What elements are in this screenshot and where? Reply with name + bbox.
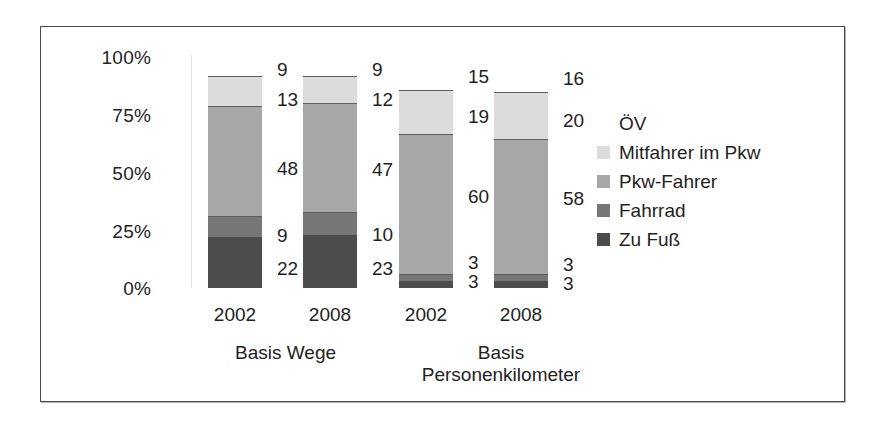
value-label-wege-2008-pkw-fahrer: 47 xyxy=(372,160,393,179)
bar-segment-zu-fuss xyxy=(303,235,357,288)
value-label-pkm-2002-pkw-fahrer: 60 xyxy=(468,187,489,206)
plot-area: 100% 75% 50% 25% 0% 9 13 48 9 22 xyxy=(41,27,846,403)
bar-segment-pkw-fahrer xyxy=(399,134,453,274)
value-label-wege-2002-fahrrad: 9 xyxy=(277,226,288,245)
bar-segment-mitfahrer-im-pkw xyxy=(494,92,548,139)
value-label-pkm-2008-pkw-fahrer: 58 xyxy=(563,189,584,208)
y-axis-line xyxy=(191,55,192,288)
value-label-pkm-2008-zu-fuss: 3 xyxy=(563,274,574,293)
bar-segment-pkw-fahrer xyxy=(208,106,262,217)
bar-column-wege-2002[interactable] xyxy=(208,55,262,288)
value-label-wege-2008-zu-fuss: 23 xyxy=(372,259,393,278)
chart-legend: ÖV Mitfahrer im Pkw Pkw-Fahrer Fahrrad Z xyxy=(597,109,827,254)
bar-segment-pkw-fahrer xyxy=(494,139,548,274)
value-label-pkm-2002-zu-fuss: 3 xyxy=(468,272,479,291)
group-label-basis-personenkilometer: Basis Personenkilometer xyxy=(371,342,631,387)
value-label-pkm-2002-mitfahrer: 19 xyxy=(468,107,489,126)
group-label-line-1: Basis xyxy=(371,342,631,364)
group-label-line-2: Personenkilometer xyxy=(371,364,631,386)
value-label-pkm-2008-oev: 16 xyxy=(563,69,584,88)
legend-item-oev[interactable]: ÖV xyxy=(597,109,827,138)
value-label-wege-2002-mitfahrer: 13 xyxy=(277,90,298,109)
bar-segment-fahrrad xyxy=(208,216,262,237)
y-axis-tick-75: 75% xyxy=(63,105,151,127)
y-axis-tick-0: 0% xyxy=(63,278,151,300)
bar-segment-mitfahrer-im-pkw xyxy=(208,76,262,106)
bar-segment-zu-fuss xyxy=(494,281,548,288)
x-axis-label-wege-2002: 2002 xyxy=(198,304,272,326)
legend-swatch-mitfahrer-icon xyxy=(597,146,610,159)
legend-item-mitfahrer-im-pkw[interactable]: Mitfahrer im Pkw xyxy=(597,138,827,167)
bar-segment-oev xyxy=(303,55,357,76)
bar-segment-mitfahrer-im-pkw xyxy=(399,90,453,134)
bar-segment-zu-fuss xyxy=(208,237,262,288)
legend-swatch-fahrrad-icon xyxy=(597,204,610,217)
x-axis-label-pkm-2008: 2008 xyxy=(484,304,558,326)
legend-item-pkw-fahrer[interactable]: Pkw-Fahrer xyxy=(597,167,827,196)
legend-swatch-zu-fuss-icon xyxy=(597,233,610,246)
y-axis-tick-100: 100% xyxy=(63,47,151,69)
bar-segment-fahrrad xyxy=(303,212,357,235)
legend-swatch-pkw-fahrer-icon xyxy=(597,175,610,188)
y-axis-tick-25: 25% xyxy=(63,221,151,243)
value-label-wege-2002-pkw-fahrer: 48 xyxy=(277,159,298,178)
bar-segment-mitfahrer-im-pkw xyxy=(303,76,357,104)
legend-label-zu-fuss: Zu Fuß xyxy=(619,229,680,251)
legend-swatch-oev-icon xyxy=(597,117,610,130)
figure-frame: 100% 75% 50% 25% 0% 9 13 48 9 22 xyxy=(40,26,845,402)
value-label-wege-2008-fahrrad: 10 xyxy=(372,225,393,244)
value-label-pkm-2002-oev: 15 xyxy=(468,67,489,86)
legend-label-pkw-fahrer: Pkw-Fahrer xyxy=(619,171,717,193)
value-label-pkm-2008-fahrrad: 3 xyxy=(563,255,574,274)
bar-segment-zu-fuss xyxy=(399,281,453,288)
y-axis-tick-50: 50% xyxy=(63,163,151,185)
bar-column-pkm-2008[interactable] xyxy=(494,55,548,288)
value-label-wege-2002-zu-fuss: 22 xyxy=(277,259,298,278)
value-label-wege-2008-oev: 9 xyxy=(372,60,383,79)
legend-item-zu-fuss[interactable]: Zu Fuß xyxy=(597,225,827,254)
bar-segment-fahrrad xyxy=(399,274,453,281)
legend-label-oev: ÖV xyxy=(619,113,646,135)
bar-stack xyxy=(399,55,453,288)
bar-stack xyxy=(494,55,548,288)
bar-column-pkm-2002[interactable] xyxy=(399,55,453,288)
value-label-pkm-2008-mitfahrer: 20 xyxy=(563,111,584,130)
group-label-basis-wege: Basis Wege xyxy=(188,342,383,364)
value-label-wege-2008-mitfahrer: 12 xyxy=(372,90,393,109)
x-axis-label-pkm-2002: 2002 xyxy=(389,304,463,326)
bar-stack xyxy=(303,55,357,288)
bar-segment-oev xyxy=(494,55,548,92)
value-label-wege-2002-oev: 9 xyxy=(277,60,288,79)
bar-segment-oev xyxy=(208,55,262,76)
bar-column-wege-2008[interactable] xyxy=(303,55,357,288)
bar-segment-pkw-fahrer xyxy=(303,103,357,211)
value-label-pkm-2002-fahrrad: 3 xyxy=(468,253,479,272)
legend-item-fahrrad[interactable]: Fahrrad xyxy=(597,196,827,225)
bar-stack xyxy=(208,55,262,288)
bar-segment-oev xyxy=(399,55,453,90)
bar-segment-fahrrad xyxy=(494,274,548,281)
chart-page: 100% 75% 50% 25% 0% 9 13 48 9 22 xyxy=(0,0,881,427)
x-axis-label-wege-2008: 2008 xyxy=(293,304,367,326)
legend-label-fahrrad: Fahrrad xyxy=(619,200,686,222)
legend-label-mitfahrer-im-pkw: Mitfahrer im Pkw xyxy=(619,142,760,164)
